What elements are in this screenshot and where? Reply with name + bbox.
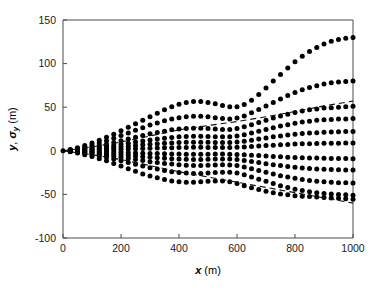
data-point: [300, 141, 305, 146]
data-point: [213, 145, 218, 150]
data-point: [307, 49, 312, 54]
y-axis-title: y, σy (m): [6, 107, 20, 152]
data-point: [140, 125, 145, 130]
data-point: [307, 131, 312, 136]
data-point: [184, 145, 189, 150]
data-point: [169, 156, 174, 161]
data-point: [329, 80, 334, 85]
data-point: [329, 156, 334, 161]
data-point: [220, 157, 225, 162]
data-point: [293, 59, 298, 64]
data-point: [184, 140, 189, 145]
data-point: [191, 180, 196, 185]
series-trajectory-1: [68, 35, 356, 152]
data-point: [314, 141, 319, 146]
data-point: [104, 158, 109, 163]
data-point: [264, 189, 269, 194]
data-point: [177, 115, 182, 120]
data-point: [278, 154, 283, 159]
data-point: [213, 162, 218, 167]
data-point: [155, 120, 160, 125]
data-point: [278, 142, 283, 147]
data-point: [235, 133, 240, 138]
data-point: [322, 130, 327, 135]
data-point: [249, 153, 254, 158]
data-point: [169, 104, 174, 109]
data-point: [191, 140, 196, 145]
y-tick-label: 100: [38, 57, 56, 69]
data-point: [271, 181, 276, 186]
data-point: [119, 164, 124, 169]
data-point: [300, 131, 305, 136]
scatter-plot: 02004006008001000-100-50050100150x (m)y,…: [0, 0, 386, 291]
data-point: [169, 140, 174, 145]
data-point: [285, 174, 290, 179]
data-point: [351, 79, 356, 84]
data-point: [322, 117, 327, 122]
data-point: [235, 171, 240, 176]
series-trajectory-10: [68, 149, 356, 198]
data-point: [293, 121, 298, 126]
series-trajectory-4: [68, 116, 356, 153]
data-point: [264, 154, 269, 159]
data-point: [314, 45, 319, 50]
data-point: [162, 136, 167, 141]
data-point: [169, 178, 174, 183]
data-point: [264, 103, 269, 108]
figure-container: 02004006008001000-100-50050100150x (m)y,…: [0, 0, 386, 291]
data-point: [285, 142, 290, 147]
data-point: [177, 140, 182, 145]
data-point: [191, 114, 196, 119]
data-point: [235, 116, 240, 121]
data-point: [220, 140, 225, 145]
data-point: [184, 163, 189, 168]
data-point: [235, 104, 240, 109]
data-point: [148, 137, 153, 142]
data-point: [220, 134, 225, 139]
data-point: [119, 158, 124, 163]
data-point: [177, 162, 182, 167]
data-point: [169, 151, 174, 156]
data-point: [198, 140, 203, 145]
data-point: [162, 107, 167, 112]
data-point: [177, 145, 182, 150]
data-point: [293, 142, 298, 147]
data-point: [300, 177, 305, 182]
data-point: [213, 170, 218, 175]
data-point: [300, 188, 305, 193]
data-point: [271, 162, 276, 167]
data-point: [184, 152, 189, 157]
data-point: [329, 117, 334, 122]
data-point: [227, 179, 232, 184]
data-point: [242, 164, 247, 169]
data-point: [343, 129, 348, 134]
x-axis-title: x (m): [194, 264, 221, 276]
data-point: [206, 114, 211, 119]
data-point: [213, 140, 218, 145]
data-point: [249, 110, 254, 115]
data-point: [307, 155, 312, 160]
data-point: [307, 166, 312, 171]
data-point: [242, 139, 247, 144]
data-point: [198, 114, 203, 119]
data-point: [206, 126, 211, 131]
data-point: [155, 111, 160, 116]
data-point: [285, 112, 290, 117]
data-point: [220, 162, 225, 167]
data-point: [242, 124, 247, 129]
data-point: [278, 183, 283, 188]
data-point: [314, 83, 319, 88]
data-point: [227, 145, 232, 150]
data-point: [235, 145, 240, 150]
data-point: [343, 156, 348, 161]
data-point: [191, 157, 196, 162]
data-point: [198, 163, 203, 168]
x-tick-label: 800: [286, 242, 304, 254]
data-point: [285, 65, 290, 70]
data-point: [271, 79, 276, 84]
data-point: [264, 179, 269, 184]
data-point: [271, 125, 276, 130]
series-trajectory-8: [68, 149, 356, 173]
data-point: [213, 152, 218, 157]
data-point: [242, 144, 247, 149]
